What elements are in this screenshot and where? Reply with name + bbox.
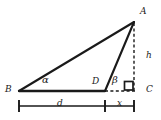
geometry-diagram: A B C D α β d x h xyxy=(0,0,161,120)
right-angle-marker-icon xyxy=(125,82,134,91)
dimension-label-x: x xyxy=(117,99,122,108)
vertex-label-C: C xyxy=(146,85,153,94)
dimension-label-d: d xyxy=(57,99,63,108)
vertex-label-B: B xyxy=(5,85,12,94)
vertex-label-A: A xyxy=(140,7,147,16)
vertex-label-D: D xyxy=(92,77,99,86)
angle-label-beta: β xyxy=(112,75,118,85)
dimension-label-h: h xyxy=(146,51,152,60)
diagram-canvas xyxy=(0,0,161,120)
angle-label-alpha: α xyxy=(42,75,49,85)
